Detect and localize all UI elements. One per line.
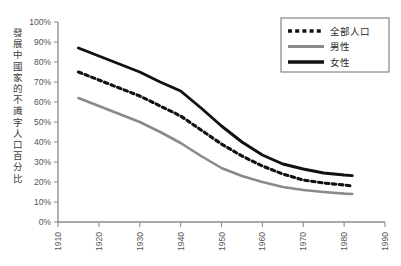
legend-label-2: 男性 [330,41,350,52]
x-tick-label: 1930 [135,232,145,251]
x-tick-label: 1920 [94,232,104,251]
y-axis-title-char: 百 [13,150,23,161]
y-tick-label: 20% [34,177,51,187]
y-axis-title-char: 不 [13,94,23,105]
x-tick-label: 1960 [257,232,267,251]
illiteracy-line-chart: 0%10%20%30%40%50%60%70%80%90%100%1910192… [0,0,401,266]
x-tick-label: 1980 [339,232,349,251]
y-axis-title-char: 比 [13,173,23,184]
y-axis-title-char: 口 [13,139,23,150]
y-tick-label: 70% [34,77,51,87]
y-axis-title-char: 人 [13,128,23,139]
y-tick-label: 50% [34,117,51,127]
y-axis-title-char: 展 [13,38,23,49]
x-tick-label: 1990 [380,232,390,251]
y-tick-label: 40% [34,137,51,147]
y-tick-label: 80% [34,57,51,67]
y-axis-title-char: 中 [13,49,23,60]
y-tick-label: 30% [34,157,51,167]
y-tick-label: 90% [34,37,51,47]
y-axis-title-char: 家 [13,72,23,83]
y-tick-label: 10% [34,197,51,207]
y-axis-title-char: 識 [13,105,23,116]
y-axis-title-char: 發 [13,27,23,38]
x-tick-label: 1910 [53,232,63,251]
series-all-population [78,72,352,186]
y-axis-title-char: 國 [13,61,23,72]
legend-label-1: 全部人口 [330,26,370,37]
y-tick-label: 60% [34,97,51,107]
y-axis-title-char: 字 [13,117,23,128]
y-tick-label: 100% [29,17,51,27]
x-tick-label: 1950 [217,232,227,251]
legend-label-3: 女性 [330,57,350,68]
y-tick-label: 0% [39,217,52,227]
series-male [78,98,352,194]
y-axis-title-char: 的 [13,83,23,94]
x-tick-label: 1970 [298,232,308,251]
y-axis-title-char: 分 [13,161,23,172]
x-tick-label: 1940 [176,232,186,251]
chart-canvas: 0%10%20%30%40%50%60%70%80%90%100%1910192… [0,0,401,266]
